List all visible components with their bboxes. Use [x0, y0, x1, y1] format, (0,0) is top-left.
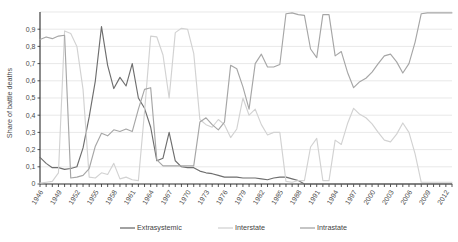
- x-tick-label: 1973: [196, 189, 210, 206]
- y-tick-label: 0,8: [26, 43, 36, 50]
- y-axis: 00,10,20,30,40,50,60,70,80,9: [26, 12, 40, 187]
- x-tick-label: 1979: [233, 189, 247, 206]
- x-tick-label: 1991: [307, 189, 321, 206]
- y-tick-label: 0,5: [26, 94, 36, 101]
- x-tick-label: 2006: [399, 189, 413, 206]
- y-axis-title: Share of battle deaths: [5, 67, 14, 138]
- y-tick-label: 0: [32, 180, 36, 187]
- y-tick-label: 0,9: [26, 26, 36, 33]
- x-tick-label: 1988: [288, 189, 302, 206]
- x-tick-label: 2009: [418, 189, 432, 206]
- x-tick-label: 1964: [141, 189, 155, 206]
- x-axis: 1946194919521955195819611964196719701973…: [30, 184, 452, 206]
- x-tick-label: 2012: [436, 189, 450, 206]
- legend-label-intrastate: Intrastate: [317, 223, 347, 232]
- x-tick-label: 1982: [252, 189, 266, 206]
- x-tick-label: 1961: [122, 189, 136, 206]
- y-tick-label: 0,7: [26, 60, 36, 67]
- legend-label-interstate: Interstate: [235, 223, 265, 232]
- x-tick-label: 1955: [85, 189, 99, 206]
- x-tick-label: 1967: [159, 189, 173, 206]
- chart-legend: ExtrasystemicInterstateIntrastate: [120, 223, 347, 232]
- line-chart: 00,10,20,30,40,50,60,70,80,9 19461949195…: [0, 0, 458, 242]
- gridlines: [40, 12, 452, 167]
- y-tick-label: 0,4: [26, 112, 36, 119]
- x-tick-label: 1970: [178, 189, 192, 206]
- x-tick-label: 1952: [67, 189, 81, 206]
- x-tick-label: 1985: [270, 189, 284, 206]
- x-tick-label: 1949: [49, 189, 63, 206]
- x-tick-label: 1958: [104, 189, 118, 206]
- x-tick-label: 1946: [30, 189, 44, 206]
- series-line-intrastate: [40, 13, 452, 178]
- y-tick-label: 0,2: [26, 146, 36, 153]
- y-tick-label: 0,3: [26, 129, 36, 136]
- x-tick-label: 1976: [215, 189, 229, 206]
- y-tick-label: 0,1: [26, 163, 36, 170]
- legend-label-extrasystemic: Extrasystemic: [137, 223, 182, 232]
- x-tick-label: 1997: [344, 189, 358, 206]
- y-axis-title-group: Share of battle deaths: [5, 67, 14, 138]
- x-tick-label: 2003: [381, 189, 395, 206]
- y-tick-label: 0,6: [26, 77, 36, 84]
- x-tick-label: 1994: [325, 189, 339, 206]
- series-line-interstate: [40, 28, 452, 183]
- data-series-group: [40, 13, 452, 184]
- x-tick-label: 2000: [362, 189, 376, 206]
- chart-container: 00,10,20,30,40,50,60,70,80,9 19461949195…: [0, 0, 458, 242]
